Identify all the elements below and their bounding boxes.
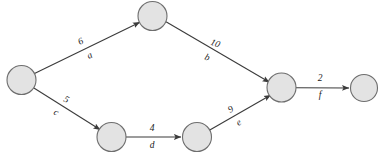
graph-node-n6[interactable] (351, 75, 378, 102)
graph-node-n1[interactable] (7, 66, 36, 95)
edge-d-weight-label: 4 (150, 124, 155, 134)
edge-f-weight-label: 2 (318, 74, 323, 84)
graph-node-n2[interactable] (138, 2, 167, 31)
graph-node-n3[interactable] (97, 123, 126, 152)
graph-node-n4[interactable] (183, 123, 212, 152)
edge-a-line (35, 22, 140, 73)
edge-f-name-label: f (319, 91, 322, 101)
graph-node-n5[interactable] (267, 73, 296, 102)
edge-d-name-label: d (150, 141, 155, 151)
graph-svg (0, 0, 381, 156)
edge-b-line (166, 22, 270, 83)
diagram-canvas: 6 a 10 b 5 c 4 d 9 e 2 f (0, 0, 381, 156)
